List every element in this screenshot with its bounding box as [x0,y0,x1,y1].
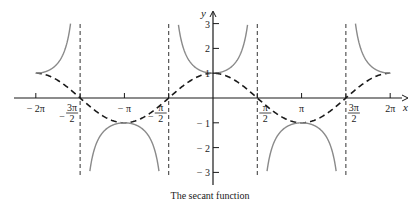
x-tick-label-denominator: 2 [263,113,268,124]
secant-chart: − 2π−3π2− π−π2π2π3π22π 321− 1− 2− 3 x y … [0,0,417,209]
y-tick-label: 1 [205,68,210,79]
x-tick-label-sign: − [148,111,154,122]
x-tick-label: − 2π [27,103,45,114]
secant-branch [355,24,390,73]
x-tick-label-numerator: π [158,102,163,113]
secant-branch [267,123,336,171]
y-tick-label: 2 [205,43,210,54]
x-tick-label: − π [118,103,131,114]
x-tick-label-numerator: π [263,102,268,113]
x-tick-label: π [299,103,304,114]
x-tick-label: 2π [385,103,395,114]
y-tick-label: − 1 [197,118,210,129]
x-axis-label: x [402,101,408,113]
x-tick-label-denominator: 2 [70,113,75,124]
x-tick-label-denominator: 2 [158,113,163,124]
axes [14,11,408,185]
x-tick-label-numerator: 3π [67,102,77,113]
secant-branch [90,123,159,171]
chart-title: The secant function [171,190,250,201]
y-axis-label: y [200,7,206,19]
x-tick-label-sign: − [59,111,65,122]
y-tick-label: 3 [205,19,210,30]
x-tick-label-denominator: 2 [351,113,356,124]
secant-branch [36,24,71,73]
y-tick-label: − 2 [197,143,210,154]
y-tick-label: − 3 [197,167,210,178]
x-tick-label-numerator: 3π [349,102,359,113]
